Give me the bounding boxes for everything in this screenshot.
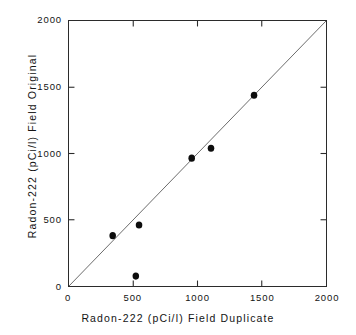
- plot-frame: [68, 20, 327, 287]
- data-point: [251, 92, 258, 99]
- scatter-plot-figure: 2000 1500 1000 500 0 0 500 1000 1500 200…: [0, 0, 356, 335]
- x-tick-label-1000: 1000: [185, 293, 210, 303]
- x-axis-title: Radon-222 (pCi/l) Field Duplicate: [0, 312, 356, 324]
- y-tick-label-1000: 1000: [37, 149, 62, 159]
- data-point: [136, 221, 143, 228]
- y-tick-label-500: 500: [43, 216, 62, 226]
- data-point: [109, 232, 116, 239]
- data-points-group: [109, 92, 257, 280]
- y-tick-label-1500: 1500: [37, 82, 62, 92]
- x-tick-label-2000: 2000: [315, 293, 340, 303]
- y-axis-title: Radon-222 (pCi/l) Field Original: [26, 0, 38, 296]
- reference-line: [69, 21, 326, 286]
- data-point: [133, 272, 140, 279]
- data-point: [188, 155, 195, 162]
- x-tick-label-0: 0: [65, 293, 71, 303]
- x-tick-label-1500: 1500: [250, 293, 275, 303]
- data-point: [208, 145, 215, 152]
- plot-canvas: [69, 21, 326, 286]
- x-tick-label-500: 500: [123, 293, 142, 303]
- identity-line: [69, 21, 326, 286]
- y-tick-label-0: 0: [56, 282, 62, 292]
- y-tick-label-2000: 2000: [37, 15, 62, 25]
